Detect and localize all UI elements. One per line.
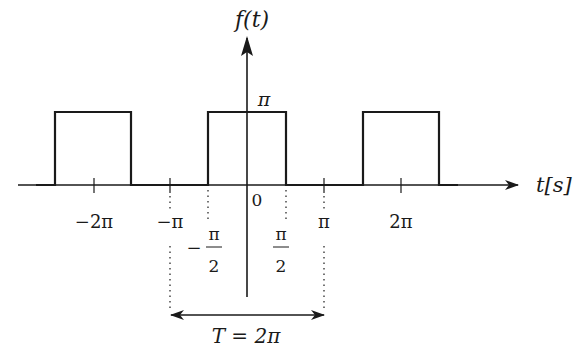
y-axis-label: f(t) — [233, 7, 269, 32]
half-pi-label: π 2 — [273, 224, 289, 276]
svg-text:π: π — [208, 224, 219, 244]
tick-label-pi: π — [318, 211, 330, 232]
pulse-train-diagram: f(t) t[s] π 0 −2π −π π 2π − π 2 π 2 T = … — [0, 0, 577, 360]
period-label: T = 2π — [212, 324, 282, 348]
svg-text:−: − — [186, 237, 201, 258]
x-axis-label: t[s] — [536, 173, 572, 197]
tick-label-neg-2pi: −2π — [75, 211, 114, 232]
neg-half-pi-label: − π 2 — [186, 224, 222, 276]
amplitude-label: π — [257, 88, 271, 110]
tick-label-neg-pi: −π — [157, 211, 184, 232]
svg-text:2: 2 — [209, 256, 220, 276]
tick-label-2pi: 2π — [389, 211, 412, 232]
svg-text:2: 2 — [276, 256, 287, 276]
origin-label: 0 — [252, 190, 263, 210]
svg-text:π: π — [275, 224, 286, 244]
